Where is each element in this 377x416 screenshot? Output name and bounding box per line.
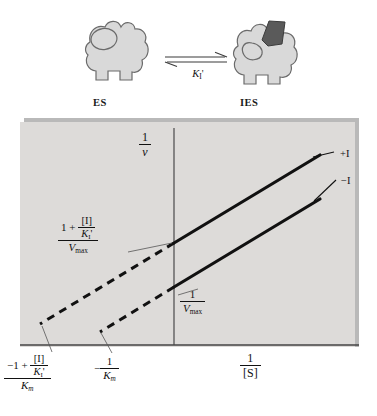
leader-series-minus-i	[314, 180, 336, 201]
series-line-minus-i	[174, 199, 320, 287]
x-axis-label: 1 [S]	[240, 352, 261, 379]
leader-x-intercept-inhibitor	[42, 326, 52, 352]
x-intercept-label-no-inhibitor: − 1 Km	[94, 356, 119, 383]
y-intercept-label-with-inhibitor: 1 + [I] KI' Vmax	[58, 216, 98, 255]
series-dashed-minus-i	[100, 287, 174, 332]
leader-series-plus-i	[313, 152, 334, 157]
lineweaver-burk-plot	[0, 0, 377, 416]
series-label-minus-i: −I	[341, 175, 351, 186]
y-axis-label: 1 v	[139, 131, 151, 158]
series-line-plus-i	[174, 155, 320, 243]
figure-root: KI' ES IES 1	[0, 0, 377, 416]
y-intercept-label-no-inhibitor: 1 Vmax	[180, 289, 205, 316]
series-label-plus-i: +I	[340, 148, 350, 159]
x-intercept-label-with-inhibitor: −1 + [I] KI' Km	[4, 354, 51, 393]
leader-y-intercept-inhibitor	[128, 243, 172, 252]
leader-x-intercept-km	[101, 333, 112, 353]
